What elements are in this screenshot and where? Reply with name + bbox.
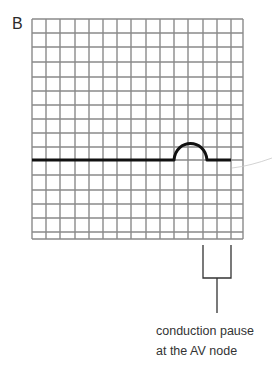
av-node-pause-label: conduction pause at the AV node xyxy=(156,321,254,361)
av-pause-bracket xyxy=(203,245,231,313)
annotation-line-1: conduction pause xyxy=(156,321,254,341)
ecg-diagram xyxy=(0,0,277,367)
ecg-grid-paper xyxy=(32,19,243,239)
bracket-path xyxy=(203,245,231,313)
annotation-line-2: at the AV node xyxy=(156,341,254,361)
ecg-figure: B conduction pause at the AV node xyxy=(0,0,277,367)
